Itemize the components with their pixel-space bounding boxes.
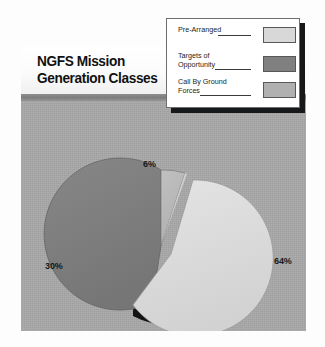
pie-slice-targets-of-opportunity — [44, 158, 161, 310]
pie-chart-svg — [21, 101, 306, 331]
legend-leader-line — [200, 95, 251, 96]
pie-label-30: 30% — [45, 261, 63, 271]
pie-label-6: 6% — [143, 159, 156, 169]
legend-swatch-targets-of-opportunity — [263, 56, 296, 72]
legend-inner: Pre-Arranged Targets of Opportunity Call… — [172, 23, 296, 105]
legend-box: Pre-Arranged Targets of Opportunity Call… — [166, 18, 300, 108]
legend-swatch-pre-arranged — [263, 27, 296, 43]
legend-item-pre-arranged[interactable]: Pre-Arranged — [178, 26, 296, 50]
pie-label-64: 64% — [274, 256, 292, 266]
legend-swatch-call-by-ground-forces — [263, 82, 296, 98]
legend-item-call-by-ground-forces[interactable]: Call By Ground Forces — [178, 78, 296, 102]
page-canvas: NGFS Mission Generation Classes — [0, 0, 325, 347]
pie-chart: 6% 64% 30% — [21, 101, 306, 331]
legend-item-targets-of-opportunity[interactable]: Targets of Opportunity — [178, 52, 296, 76]
legend-item-label: Pre-Arranged — [178, 26, 252, 35]
legend-leader-line — [215, 69, 251, 70]
legend-item-label: Targets of Opportunity — [178, 52, 252, 69]
legend-leader-line — [218, 35, 251, 36]
legend-item-label: Call By Ground Forces — [178, 78, 252, 95]
